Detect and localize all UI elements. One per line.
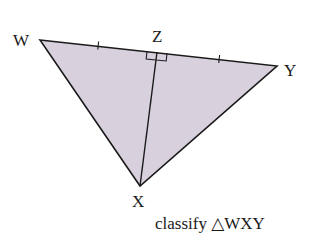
triangle-diagram: W Z Y X classify △WXY bbox=[0, 0, 316, 239]
vertex-label-w: W bbox=[13, 31, 30, 50]
vertex-label-x: X bbox=[132, 192, 144, 211]
diagram-canvas: W Z Y X classify △WXY bbox=[0, 0, 316, 239]
vertex-label-z: Z bbox=[152, 27, 162, 46]
caption-text: classify △WXY bbox=[155, 214, 265, 233]
vertex-label-y: Y bbox=[284, 61, 296, 80]
triangle-wxy bbox=[40, 40, 277, 186]
